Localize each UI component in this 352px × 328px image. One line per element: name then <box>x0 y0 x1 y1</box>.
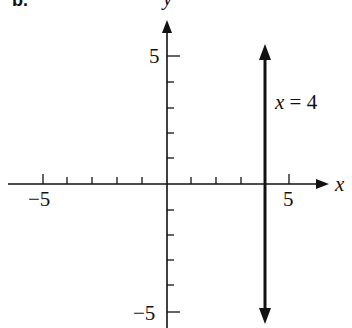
line-bottom-arrow-icon <box>259 308 271 324</box>
x-tick-label-neg5: −5 <box>28 187 50 211</box>
x-axis-label: x <box>334 172 345 196</box>
line-top-arrow-icon <box>259 44 271 60</box>
x-tick-label-5: 5 <box>283 187 294 211</box>
x-axis: −5 5 x <box>8 172 345 211</box>
x-axis-ticks <box>43 174 289 184</box>
y-tick-label-neg5: −5 <box>133 301 155 325</box>
line-annotation: x = 4 <box>274 90 318 114</box>
x-axis-arrow-icon <box>316 179 329 189</box>
coordinate-plane-figure: b. −5 5 x <box>0 0 352 328</box>
y-axis-arrow-icon <box>162 20 172 33</box>
y-axis-label: y <box>161 0 173 10</box>
y-tick-label-5: 5 <box>149 44 160 68</box>
panel-label: b. <box>12 0 28 10</box>
y-axis: 5 −5 y <box>133 0 180 328</box>
